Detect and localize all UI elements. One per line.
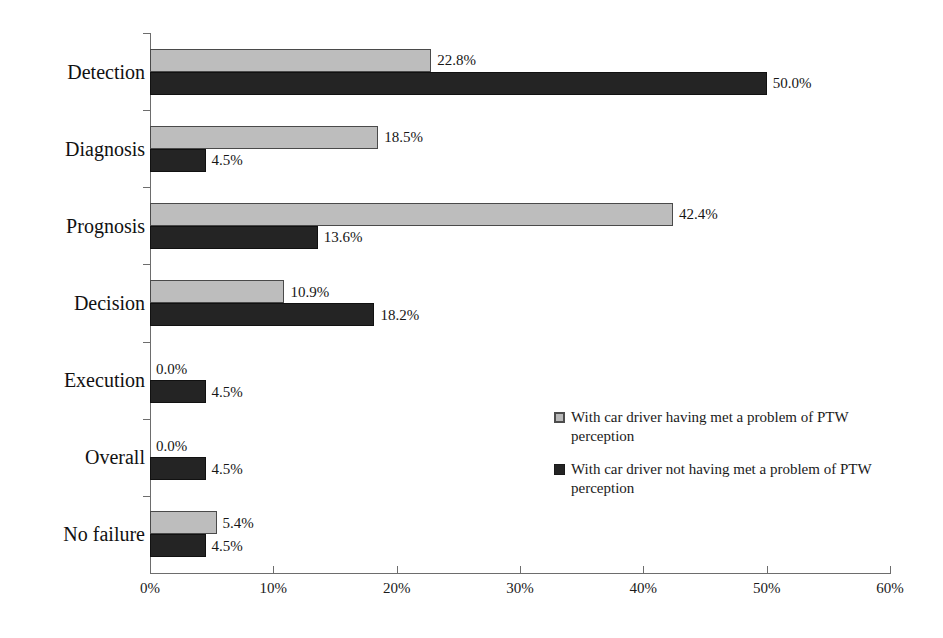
y-axis-category-label-overall: Overall [5, 445, 145, 469]
bar-value-label-series-a: 22.8% [437, 51, 476, 69]
y-axis-category-label-detection: Detection [5, 60, 145, 84]
x-axis-tick [273, 566, 274, 574]
x-axis-tick-label: 30% [506, 578, 534, 598]
legend-swatch-icon-series-b [554, 464, 565, 475]
y-axis-category-label-execution: Execution [5, 368, 145, 392]
x-axis-tick-label: 40% [630, 578, 658, 598]
bar-value-label-series-b: 13.6% [324, 228, 363, 246]
bar-series-b [150, 457, 206, 480]
x-axis-tick [767, 566, 768, 574]
bar-value-label-series-a: 0.0% [156, 360, 187, 378]
bar-value-label-series-a: 42.4% [679, 205, 718, 223]
chart-legend: With car driver having met a problem of … [553, 408, 893, 512]
x-axis-tick [397, 566, 398, 574]
x-axis-tick-label: 50% [753, 578, 781, 598]
bar-series-b [150, 149, 206, 172]
x-axis-tick [643, 566, 644, 574]
bar-value-label-series-b: 4.5% [212, 151, 243, 169]
bar-series-a [150, 49, 431, 72]
bar-value-label-series-b: 4.5% [212, 383, 243, 401]
legend-swatch-icon-series-a [554, 412, 565, 423]
bar-value-label-series-b: 4.5% [212, 460, 243, 478]
bar-value-label-series-b: 4.5% [212, 537, 243, 555]
bar-series-a [150, 203, 673, 226]
bar-series-a [150, 511, 217, 534]
bar-series-b [150, 534, 206, 557]
y-axis-category-label-no-failure: No failure [5, 522, 145, 546]
legend-entry-series-b: With car driver not having met a problem… [553, 460, 893, 498]
x-axis-tick-label: 10% [260, 578, 288, 598]
y-axis-category-label-prognosis: Prognosis [5, 214, 145, 238]
legend-label-series-a: With car driver having met a problem of … [571, 408, 893, 446]
bar-chart: 0%10%20%30%40%50%60% DetectionDiagnosisP… [0, 0, 943, 638]
bar-value-label-series-b: 50.0% [773, 74, 812, 92]
bar-value-label-series-a: 5.4% [223, 514, 254, 532]
bar-series-b [150, 303, 374, 326]
legend-entry-series-a: With car driver having met a problem of … [553, 408, 893, 446]
bar-value-label-series-a: 10.9% [290, 283, 329, 301]
x-axis-tick [150, 566, 151, 574]
bar-value-label-series-a: 0.0% [156, 437, 187, 455]
x-axis-tick [890, 566, 891, 574]
x-axis-tick [520, 566, 521, 574]
y-axis-category-label-diagnosis: Diagnosis [5, 137, 145, 161]
legend-label-series-b: With car driver not having met a problem… [571, 460, 893, 498]
bar-series-a [150, 126, 378, 149]
bar-series-b [150, 226, 318, 249]
y-axis-category-label-decision: Decision [5, 291, 145, 315]
bar-series-a [150, 280, 284, 303]
y-axis-category-labels: DetectionDiagnosisPrognosisDecisionExecu… [0, 0, 145, 638]
bar-value-label-series-b: 18.2% [380, 306, 419, 324]
bar-series-b [150, 380, 206, 403]
x-axis-tick-label: 20% [383, 578, 411, 598]
bar-value-label-series-a: 18.5% [384, 128, 423, 146]
bar-series-b [150, 72, 767, 95]
x-axis-tick-label: 60% [876, 578, 904, 598]
